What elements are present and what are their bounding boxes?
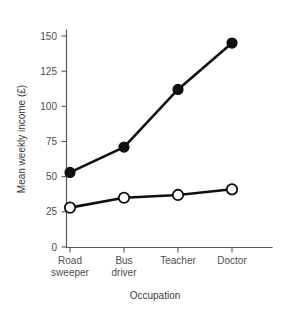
data-point-open — [119, 193, 129, 203]
data-point-open — [227, 184, 237, 194]
chart-figure: 150 125 100 75 50 25 0 Mean weekly incom… — [0, 0, 287, 313]
data-point-filled — [119, 142, 129, 152]
x-tick-label-road-sweeper-line1: Road — [58, 255, 82, 266]
y-tick-label-75: 75 — [46, 136, 58, 147]
line-chart: 150 125 100 75 50 25 0 Mean weekly incom… — [0, 0, 287, 313]
y-tick-label-125: 125 — [40, 66, 57, 77]
x-tick-label-bus-driver-line1: Bus — [115, 255, 132, 266]
y-tick-label-25: 25 — [46, 206, 58, 217]
data-point-filled — [173, 84, 183, 94]
y-tick-label-0: 0 — [51, 242, 57, 253]
x-axis-title: Occupation — [130, 290, 181, 301]
series-line-open — [70, 189, 232, 207]
y-tick-label-150: 150 — [40, 31, 57, 42]
y-axis-title: Mean weekly income (£) — [16, 85, 27, 193]
x-tick-label-teacher-line1: Teacher — [160, 255, 196, 266]
x-tick-label-doctor-line1: Doctor — [217, 255, 247, 266]
series-markers-open — [65, 184, 237, 213]
data-point-open — [65, 202, 75, 212]
y-tick-label-100: 100 — [40, 101, 57, 112]
data-point-filled — [65, 167, 75, 177]
x-tick-label-road-sweeper-line2: sweeper — [51, 267, 89, 278]
data-point-filled — [227, 38, 237, 48]
y-tick-label-50: 50 — [46, 171, 58, 182]
x-tick-label-bus-driver-line2: driver — [111, 267, 137, 278]
series-line-filled — [70, 43, 232, 172]
data-point-open — [173, 190, 183, 200]
series-markers-filled — [65, 38, 237, 177]
